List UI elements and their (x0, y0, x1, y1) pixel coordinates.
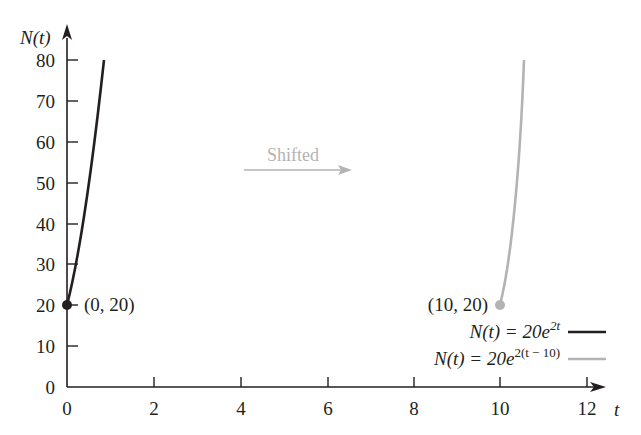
x-tick-8: 8 (409, 398, 419, 419)
x-tick-4: 4 (236, 398, 246, 419)
x-tick-labels: 0 2 4 6 8 10 12 (62, 398, 596, 419)
x-tick-6: 6 (323, 398, 333, 419)
y-tick-80: 80 (36, 50, 55, 71)
shifted-point-marker (495, 300, 505, 310)
y-tick-10: 10 (36, 336, 55, 357)
x-tick-0: 0 (62, 398, 72, 419)
x-tick-2: 2 (149, 398, 159, 419)
legend: N(t) = 20e2t N(t) = 20e2(t − 10) (433, 318, 606, 370)
y-tick-50: 50 (36, 173, 55, 194)
y-tick-30: 30 (36, 254, 55, 275)
shifted-point-label: (10, 20) (428, 294, 488, 316)
y-tick-60: 60 (36, 132, 55, 153)
legend-entry-original: N(t) = 20e2t (469, 318, 561, 343)
y-tick-0: 0 (46, 377, 56, 398)
x-tick-10: 10 (491, 398, 510, 419)
y-axis-arrow-icon (62, 24, 72, 40)
y-axis-title: N(t) (19, 27, 51, 49)
x-axis-title: t (614, 399, 620, 420)
chart-canvas: 80 70 60 50 40 30 20 10 0 0 2 4 6 8 10 1… (0, 0, 641, 435)
x-ticks (154, 377, 587, 387)
origin-point-label: (0, 20) (84, 294, 135, 316)
legend-entry-shifted: N(t) = 20e2(t − 10) (433, 345, 560, 370)
x-tick-12: 12 (578, 398, 597, 419)
y-tick-labels: 80 70 60 50 40 30 20 10 0 (36, 50, 55, 398)
y-tick-70: 70 (36, 91, 55, 112)
y-tick-40: 40 (36, 214, 55, 235)
series-shifted-curve (500, 60, 524, 305)
origin-point-marker (62, 300, 72, 310)
y-tick-20: 20 (36, 295, 55, 316)
shifted-annotation-label: Shifted (267, 145, 319, 165)
